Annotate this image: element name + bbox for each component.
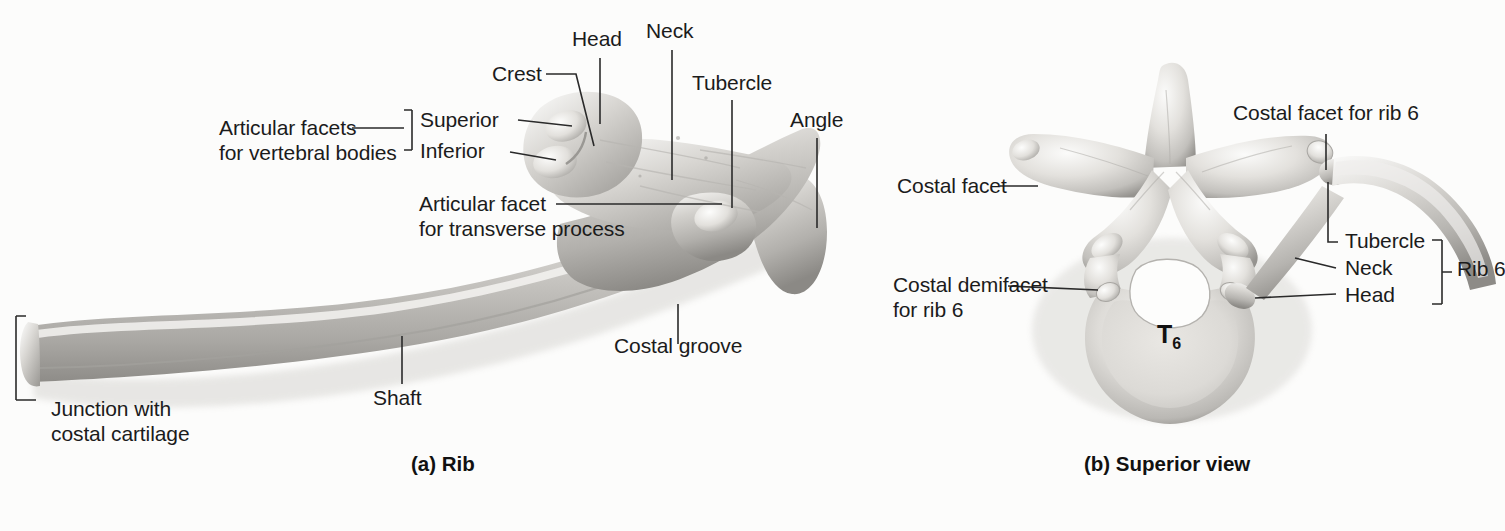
caption-panel-b: (b) Superior view xyxy=(1084,452,1250,476)
caption-panel-a: (a) Rib xyxy=(411,452,475,476)
label-tubercle-b: Tubercle xyxy=(1345,228,1425,253)
label-articular-facets-vertebral-bodies: Articular facetsfor vertebral bodies xyxy=(219,115,397,165)
label-superior: Superior xyxy=(420,107,499,132)
bracket-rib6 xyxy=(1432,240,1452,304)
label-junction-line1: Junction with xyxy=(51,397,171,420)
leader-neck-b xyxy=(1295,258,1336,268)
label-t6-vertebra: T6 xyxy=(1157,320,1181,353)
label-costal-facet-for-rib-6: Costal facet for rib 6 xyxy=(1233,100,1419,125)
label-t6-subscript: 6 xyxy=(1172,335,1181,352)
label-crest: Crest xyxy=(492,61,542,86)
label-junction-line2: costal cartilage xyxy=(51,422,189,445)
label-articular-facet-line2: for transverse process xyxy=(419,217,625,240)
rib-sternal-end xyxy=(20,322,40,386)
label-head: Head xyxy=(572,26,622,51)
label-articular-facets-line1: Articular facets xyxy=(219,116,356,139)
label-head-b: Head xyxy=(1345,282,1395,307)
label-inferior: Inferior xyxy=(420,138,485,163)
label-articular-facets-line2: for vertebral bodies xyxy=(219,141,397,164)
vertebral-foramen xyxy=(1130,259,1210,328)
label-costal-demifacet-line1: Costal demifacet xyxy=(893,273,1048,296)
label-costal-demifacet-for-rib-6: Costal demifacetfor rib 6 xyxy=(893,272,1048,322)
label-shaft: Shaft xyxy=(373,385,422,410)
anatomy-figure: Articular facetsfor vertebral bodies Sup… xyxy=(0,0,1505,531)
rib6-neck xyxy=(1246,186,1344,300)
label-t6-letter: T xyxy=(1157,320,1172,348)
label-costal-groove: Costal groove xyxy=(614,333,742,358)
label-angle: Angle xyxy=(790,107,843,132)
label-junction-costal-cartilage: Junction withcostal cartilage xyxy=(51,396,189,446)
label-articular-facet-transverse-process: Articular facetfor transverse process xyxy=(419,191,625,241)
label-neck-b: Neck xyxy=(1345,255,1392,280)
label-articular-facet-line1: Articular facet xyxy=(419,192,546,215)
bracket-articular-facets xyxy=(404,110,412,150)
label-costal-demifacet-line2: for rib 6 xyxy=(893,298,963,321)
label-tubercle: Tubercle xyxy=(692,70,772,95)
label-neck: Neck xyxy=(646,18,693,43)
label-costal-facet: Costal facet xyxy=(897,173,1007,198)
label-rib-6: Rib 6 xyxy=(1457,256,1505,281)
